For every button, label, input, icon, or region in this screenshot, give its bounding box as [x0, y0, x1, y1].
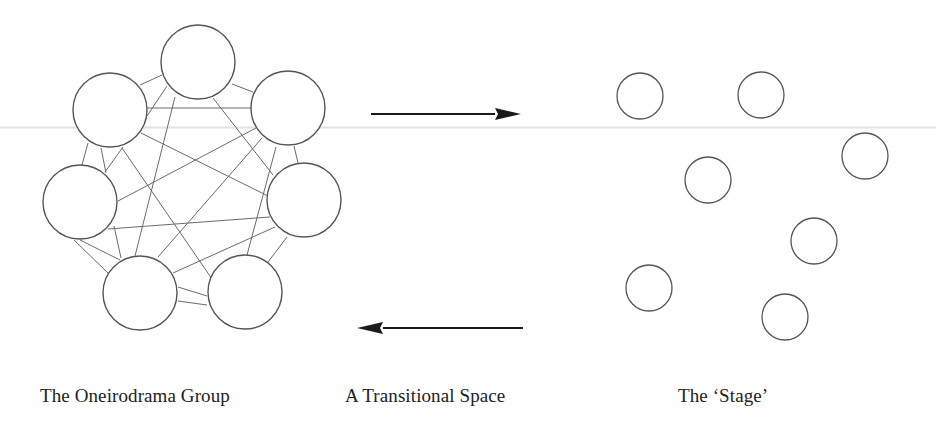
group-member-node	[267, 163, 341, 237]
connection-line	[141, 133, 268, 196]
forward-arrow	[371, 108, 521, 120]
connection-line	[147, 86, 167, 116]
connection-line	[140, 75, 162, 85]
arrowhead-icon	[357, 322, 383, 334]
connection-line	[294, 146, 298, 163]
backward-arrow	[357, 322, 523, 334]
connection-line	[82, 143, 88, 165]
connection-line	[108, 217, 270, 229]
stage-member-node	[738, 72, 784, 118]
stage-member-node	[617, 73, 663, 119]
stage-member-node	[685, 157, 731, 203]
diagram-canvas	[0, 0, 936, 431]
connection-line	[105, 147, 123, 172]
transition-label: A Transitional Space	[345, 385, 505, 407]
arrowhead-icon	[495, 108, 521, 120]
group-member-node	[161, 25, 235, 99]
stage-member-node	[626, 265, 672, 311]
oneirodrama-group-nodes	[43, 25, 341, 330]
stage-member-node	[791, 218, 837, 264]
group-member-node	[103, 256, 177, 330]
group-member-node	[73, 73, 147, 147]
stage-member-node	[842, 133, 888, 179]
connection-line	[118, 128, 256, 201]
group-label: The Oneirodrama Group	[40, 385, 230, 407]
connection-line	[268, 237, 287, 262]
stage-member-node	[762, 294, 808, 340]
transition-arrows	[357, 108, 523, 334]
connection-line	[178, 287, 207, 296]
group-member-node	[208, 255, 282, 329]
group-member-node	[251, 71, 325, 145]
group-member-node	[43, 165, 117, 239]
stage-nodes	[617, 72, 888, 340]
stage-label: The ‘Stage’	[678, 385, 768, 407]
connection-line	[178, 301, 207, 305]
connection-line	[80, 240, 120, 260]
connection-line	[101, 148, 106, 173]
connection-line	[114, 226, 121, 258]
connection-line	[232, 84, 253, 92]
connection-line	[158, 138, 262, 257]
